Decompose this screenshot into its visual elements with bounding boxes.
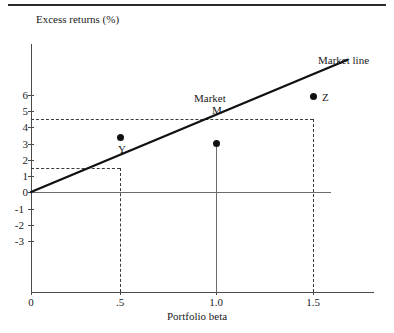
market-line-annotation: Market line [318, 54, 369, 66]
market-line-series [0, 0, 394, 333]
data-point-y [117, 134, 124, 141]
chart-figure: Excess returns (%) 6 5 4 3 2 1 0 -1 -2 -… [0, 0, 394, 333]
data-point-label-z: Z [322, 91, 329, 103]
data-point-label-m: M [212, 104, 222, 116]
data-point-label-y: Y [118, 143, 126, 155]
data-point-z [310, 93, 317, 100]
x-axis-title: Portfolio beta [0, 310, 394, 322]
data-point-market-m [213, 140, 220, 147]
data-point-label-market: Market [194, 92, 226, 104]
